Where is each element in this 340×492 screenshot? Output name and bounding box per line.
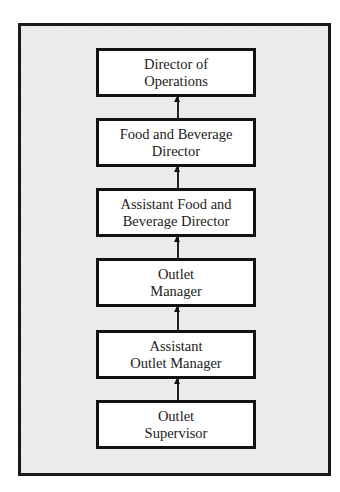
arrow-up-icon: [177, 307, 179, 330]
node-label-line: Director of: [144, 56, 208, 73]
arrow-up-icon: [177, 167, 179, 188]
node-label-line: Assistant Food and: [120, 196, 231, 213]
arrow-up-icon: [177, 237, 179, 258]
node-label-line: Manager: [150, 283, 202, 300]
node-outlet-supervisor: Outlet Supervisor: [96, 400, 256, 449]
node-label-line: Food and Beverage: [120, 126, 233, 143]
node-label-line: Assistant: [149, 338, 202, 355]
node-assistant-food-and-beverage-director: Assistant Food and Beverage Director: [96, 188, 256, 237]
node-label-line: Outlet: [158, 408, 194, 425]
node-label-line: Outlet: [158, 266, 194, 283]
node-label-line: Supervisor: [145, 425, 208, 442]
node-label-line: Outlet Manager: [130, 355, 221, 372]
node-label-line: Director: [152, 143, 200, 160]
node-label-line: Beverage Director: [123, 213, 230, 230]
node-outlet-manager: Outlet Manager: [96, 258, 256, 307]
node-food-and-beverage-director: Food and Beverage Director: [96, 118, 256, 167]
node-label-line: Operations: [144, 73, 208, 90]
arrow-up-icon: [177, 97, 179, 118]
arrow-up-icon: [177, 379, 179, 400]
node-assistant-outlet-manager: Assistant Outlet Manager: [96, 330, 256, 379]
node-director-of-operations: Director of Operations: [96, 48, 256, 97]
